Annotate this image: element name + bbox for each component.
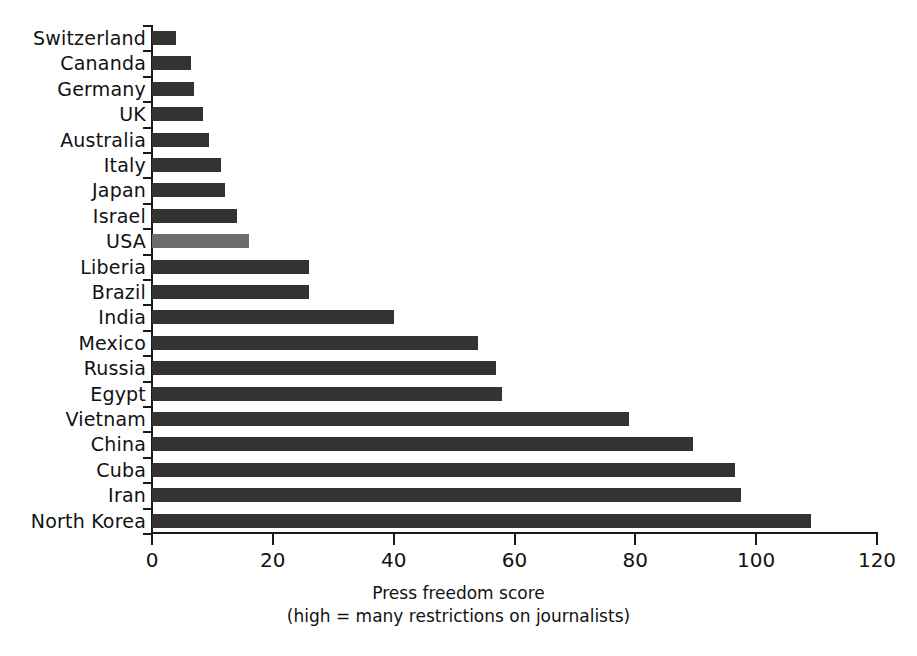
y-label-usa: USA xyxy=(6,228,146,254)
y-label-australia: Australia xyxy=(6,127,146,153)
y-tick xyxy=(143,279,152,281)
x-tick-label-120: 120 xyxy=(858,548,896,572)
bar-egypt xyxy=(152,387,502,401)
y-tick xyxy=(143,406,152,408)
y-label-cuba: Cuba xyxy=(6,457,146,483)
bar-row xyxy=(152,25,877,51)
y-label-russia: Russia xyxy=(6,355,146,381)
y-tick xyxy=(143,508,152,510)
x-tick xyxy=(876,534,878,545)
y-tick xyxy=(143,50,152,52)
x-axis-title-sub: (high = many restrictions on journalists… xyxy=(0,605,917,628)
bar-row xyxy=(152,508,877,534)
bar-row xyxy=(152,355,877,381)
bar-row xyxy=(152,431,877,457)
bar-cananda xyxy=(152,56,191,70)
bar-russia xyxy=(152,361,496,375)
y-tick xyxy=(143,101,152,103)
bar-row xyxy=(152,177,877,203)
bar-israel xyxy=(152,209,237,223)
y-label-switzerland: Switzerland xyxy=(6,25,146,51)
y-tick xyxy=(143,254,152,256)
y-tick xyxy=(143,127,152,129)
bar-switzerland xyxy=(152,31,176,45)
bar-uk xyxy=(152,107,203,121)
y-tick xyxy=(143,381,152,383)
press-freedom-bar-chart: SwitzerlandCanandaGermanyUKAustraliaItal… xyxy=(0,0,917,656)
y-label-iran: Iran xyxy=(6,482,146,508)
bar-row xyxy=(152,101,877,127)
y-label-italy: Italy xyxy=(6,152,146,178)
bar-row xyxy=(152,330,877,356)
y-label-uk: UK xyxy=(6,101,146,127)
y-axis-category-labels: SwitzerlandCanandaGermanyUKAustraliaItal… xyxy=(0,25,146,533)
bar-italy xyxy=(152,158,221,172)
bar-row xyxy=(152,254,877,280)
bar-usa xyxy=(152,234,249,248)
x-tick xyxy=(634,534,636,545)
y-tick xyxy=(143,431,152,433)
x-tick xyxy=(393,534,395,545)
y-label-egypt: Egypt xyxy=(6,381,146,407)
x-tick-label-100: 100 xyxy=(737,548,775,572)
y-tick xyxy=(143,76,152,78)
bar-australia xyxy=(152,133,209,147)
y-label-liberia: Liberia xyxy=(6,254,146,280)
bar-brazil xyxy=(152,285,309,299)
x-tick-label-0: 0 xyxy=(146,548,159,572)
y-tick xyxy=(143,355,152,357)
bar-liberia xyxy=(152,260,309,274)
x-axis-title: Press freedom score (high = many restric… xyxy=(0,582,917,628)
x-tick-label-60: 60 xyxy=(502,548,527,572)
x-tick xyxy=(272,534,274,545)
x-tick-label-20: 20 xyxy=(260,548,285,572)
y-tick xyxy=(143,304,152,306)
y-label-germany: Germany xyxy=(6,76,146,102)
x-tick-label-80: 80 xyxy=(623,548,648,572)
bar-row xyxy=(152,279,877,305)
y-label-north-korea: North Korea xyxy=(6,508,146,534)
y-tick xyxy=(143,25,152,27)
bar-row xyxy=(152,152,877,178)
bar-row xyxy=(152,482,877,508)
bar-row xyxy=(152,228,877,254)
x-tick-label-40: 40 xyxy=(381,548,406,572)
bar-row xyxy=(152,457,877,483)
bar-row xyxy=(152,50,877,76)
bar-mexico xyxy=(152,336,478,350)
bar-north-korea xyxy=(152,514,811,528)
plot-area xyxy=(152,25,877,533)
y-tick xyxy=(143,177,152,179)
x-tick xyxy=(755,534,757,545)
x-axis-title-main: Press freedom score xyxy=(372,583,545,603)
bar-row xyxy=(152,203,877,229)
bar-japan xyxy=(152,183,225,197)
y-tick xyxy=(143,330,152,332)
bar-germany xyxy=(152,82,194,96)
bar-vietnam xyxy=(152,412,629,426)
y-tick xyxy=(143,457,152,459)
y-tick xyxy=(143,203,152,205)
y-label-india: India xyxy=(6,304,146,330)
y-tick xyxy=(143,152,152,154)
bar-row xyxy=(152,304,877,330)
bar-iran xyxy=(152,488,741,502)
bar-india xyxy=(152,310,394,324)
y-label-china: China xyxy=(6,431,146,457)
y-label-vietnam: Vietnam xyxy=(6,406,146,432)
bar-row xyxy=(152,127,877,153)
y-tick xyxy=(143,228,152,230)
y-label-brazil: Brazil xyxy=(6,279,146,305)
bar-row xyxy=(152,76,877,102)
bar-china xyxy=(152,437,693,451)
y-tick xyxy=(143,482,152,484)
bar-row xyxy=(152,406,877,432)
y-label-cananda: Cananda xyxy=(6,50,146,76)
x-tick xyxy=(151,534,153,545)
x-tick xyxy=(514,534,516,545)
bar-cuba xyxy=(152,463,735,477)
bar-row xyxy=(152,381,877,407)
y-label-mexico: Mexico xyxy=(6,330,146,356)
y-label-japan: Japan xyxy=(6,177,146,203)
y-label-israel: Israel xyxy=(6,203,146,229)
